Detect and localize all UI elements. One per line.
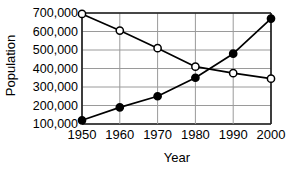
x-axis-title-label: Year: [164, 150, 190, 165]
y-tick-label: 500,000: [18, 44, 78, 56]
data-point-rising-population-1970: [154, 93, 161, 100]
plot-area: [82, 13, 271, 124]
y-tick-label: 600,000: [18, 26, 78, 38]
plot-svg: [72, 3, 281, 134]
data-point-rising-population-1980: [192, 74, 199, 81]
x-tick-label: 1980: [181, 128, 210, 142]
x-tick-label: 1960: [105, 128, 134, 142]
y-axis-title-label: Population: [4, 34, 19, 95]
y-tick-label: 400,000: [18, 63, 78, 75]
data-point-declining-population-1990: [230, 70, 237, 77]
x-tick-label: 1950: [68, 128, 97, 142]
population-line-chart: Population 700,000600,000500,000400,0003…: [0, 0, 298, 173]
x-tick-label: 1990: [219, 128, 248, 142]
x-axis-title: Year: [82, 150, 272, 165]
x-tick-label: 2000: [257, 128, 286, 142]
y-tick-label: 300,000: [18, 81, 78, 93]
data-point-declining-population-1950: [78, 10, 85, 17]
data-point-declining-population-1980: [192, 63, 199, 70]
data-point-rising-population-1950: [78, 117, 85, 124]
data-point-declining-population-1970: [154, 45, 161, 52]
data-point-declining-population-2000: [267, 75, 274, 82]
data-point-declining-population-1960: [116, 27, 123, 34]
data-point-rising-population-1990: [230, 50, 237, 57]
x-tick-label: 1970: [143, 128, 172, 142]
x-axis-tick-labels: 195019601970198019902000: [0, 128, 298, 146]
y-axis-tick-labels: 700,000600,000500,000400,000300,000200,0…: [18, 0, 78, 135]
data-point-rising-population-1960: [116, 104, 123, 111]
data-point-rising-population-2000: [267, 15, 274, 22]
y-tick-label: 700,000: [18, 7, 78, 19]
y-tick-label: 200,000: [18, 100, 78, 112]
